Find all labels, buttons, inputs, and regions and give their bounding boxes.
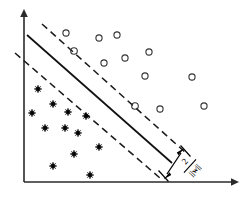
data-point-star <box>95 143 103 151</box>
data-point-circle <box>201 103 207 109</box>
data-point-star <box>28 109 36 117</box>
data-point-star <box>49 100 57 108</box>
optimal-hyperplane-line <box>27 35 172 163</box>
data-point-star <box>86 171 94 179</box>
class-negative-points <box>28 85 103 179</box>
y-axis-arrowhead <box>20 9 28 17</box>
axes-group <box>20 9 239 186</box>
data-point-circle <box>146 49 152 55</box>
data-point-star <box>82 112 90 120</box>
data-point-circle <box>142 73 148 79</box>
support-vector-star <box>74 129 82 137</box>
data-point-star <box>64 108 72 116</box>
margin-arrow-shaft <box>167 153 181 174</box>
plot-canvas: 2 ||w|| <box>0 0 244 200</box>
svm-margin-figure: 2 ||w|| <box>0 0 244 200</box>
data-point-circle <box>114 32 120 38</box>
data-point-circle <box>63 30 69 36</box>
x-axis-arrowhead <box>231 178 239 186</box>
upper-margin-line <box>42 24 186 153</box>
data-point-star <box>49 162 57 170</box>
support-vector-circle <box>132 103 139 110</box>
class-positive-points <box>63 30 207 112</box>
data-point-circle <box>122 55 128 61</box>
decision-boundary-group <box>27 35 172 163</box>
data-point-circle <box>96 35 102 41</box>
data-point-circle <box>101 60 107 66</box>
upper-margin-tick <box>181 146 191 157</box>
fraction-denominator: ||w|| <box>187 162 202 178</box>
data-point-star <box>70 150 78 158</box>
data-point-star <box>41 124 49 132</box>
fraction-numerator: 2 <box>180 156 190 166</box>
data-point-star <box>34 85 42 93</box>
data-point-star <box>61 124 69 132</box>
data-point-circle <box>189 74 195 80</box>
data-point-circle <box>157 106 163 112</box>
